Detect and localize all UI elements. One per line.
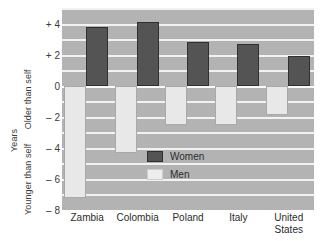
bar-women-zambia: [86, 27, 108, 86]
y-tick-4: + 4: [46, 18, 60, 29]
x-label-italy: Italy: [213, 212, 263, 224]
legend-label-women: Women: [170, 151, 204, 162]
x-label-poland: Poland: [163, 212, 213, 224]
y-tick-neg2: – 2: [46, 111, 60, 122]
gridline: [62, 24, 314, 26]
gridline: [62, 117, 314, 119]
y-tick-neg8: – 8: [46, 205, 60, 216]
legend: Women Men: [147, 148, 204, 184]
women-swatch-icon: [147, 151, 163, 162]
legend-item-women: Women: [147, 148, 204, 164]
x-axis-tick-labels: ZambiaColombiaPolandItalyUnited States: [62, 212, 314, 241]
gridline: [62, 8, 314, 10]
men-swatch-icon: [147, 169, 163, 180]
y-axis-lower-direction-label: Younger than self: [23, 144, 33, 215]
y-axis-upper-direction-label: Older than self: [23, 69, 33, 129]
legend-label-men: Men: [170, 169, 189, 180]
x-label-zambia: Zambia: [62, 212, 112, 224]
bar-women-colombia: [137, 22, 159, 86]
figure: Years Younger than self Older than self …: [0, 0, 331, 241]
gridline: [62, 194, 314, 196]
bar-men-italy: [215, 86, 237, 125]
y-tick-2: + 2: [46, 49, 60, 60]
bar-men-united-states: [266, 86, 288, 116]
bar-women-poland: [187, 42, 209, 86]
legend-item-men: Men: [147, 166, 204, 182]
y-tick-0: 0: [54, 80, 60, 91]
bar-women-united-states: [288, 56, 310, 86]
bar-men-poland: [165, 86, 187, 125]
y-tick-neg6: – 6: [46, 173, 60, 184]
x-label-united-states: United States: [264, 212, 314, 236]
y-axis-tick-labels: + 4+ 20– 2– 4– 6– 8: [34, 0, 60, 241]
gridline: [62, 132, 314, 134]
bar-women-italy: [237, 44, 259, 86]
y-axis-title: Years: [9, 129, 19, 152]
x-label-colombia: Colombia: [112, 212, 162, 224]
y-axis-direction-labels: Younger than self Older than self: [23, 69, 33, 215]
bar-men-colombia: [115, 86, 137, 153]
y-tick-neg4: – 4: [46, 142, 60, 153]
bar-men-zambia: [64, 86, 86, 198]
